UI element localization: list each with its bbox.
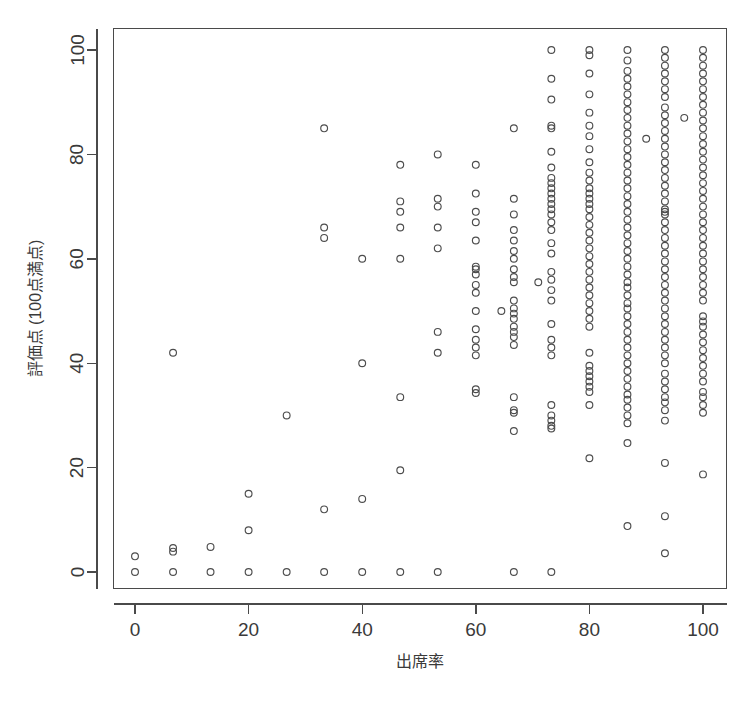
data-point bbox=[700, 54, 707, 61]
data-point bbox=[624, 185, 631, 192]
data-point bbox=[132, 553, 139, 560]
data-point bbox=[359, 569, 366, 576]
data-point bbox=[510, 237, 517, 244]
data-point bbox=[510, 394, 517, 401]
x-axis: 020406080100出席率 bbox=[114, 604, 727, 670]
data-point bbox=[700, 156, 707, 163]
data-point bbox=[397, 394, 404, 401]
data-point bbox=[624, 161, 631, 168]
data-point bbox=[662, 289, 669, 296]
data-point bbox=[586, 133, 593, 140]
data-point bbox=[662, 62, 669, 69]
data-point bbox=[624, 360, 631, 367]
data-point bbox=[586, 146, 593, 153]
data-point bbox=[662, 70, 669, 77]
data-point bbox=[700, 70, 707, 77]
data-point bbox=[586, 261, 593, 268]
data-point bbox=[624, 216, 631, 223]
data-point bbox=[662, 112, 669, 119]
data-point bbox=[700, 164, 707, 171]
data-point bbox=[700, 47, 707, 54]
data-point bbox=[359, 255, 366, 262]
data-point bbox=[498, 308, 505, 315]
data-point bbox=[624, 107, 631, 114]
data-point bbox=[700, 62, 707, 69]
data-point bbox=[624, 352, 631, 359]
data-point bbox=[700, 471, 707, 478]
data-point bbox=[624, 313, 631, 320]
data-point bbox=[434, 349, 441, 356]
data-point bbox=[132, 569, 139, 576]
data-point bbox=[586, 308, 593, 315]
data-point bbox=[548, 219, 555, 226]
data-point bbox=[586, 214, 593, 221]
data-point bbox=[624, 83, 631, 90]
data-point bbox=[548, 569, 555, 576]
data-point bbox=[624, 177, 631, 184]
data-point bbox=[624, 99, 631, 106]
data-point bbox=[700, 141, 707, 148]
plot-canvas: 020406080100出席率 020406080100評価点 (100点満点) bbox=[0, 0, 754, 702]
data-point bbox=[624, 263, 631, 270]
data-point bbox=[662, 198, 669, 205]
data-point bbox=[700, 180, 707, 187]
data-point bbox=[662, 151, 669, 158]
data-point bbox=[586, 402, 593, 409]
data-point bbox=[662, 282, 669, 289]
data-point bbox=[662, 235, 669, 242]
data-point bbox=[548, 148, 555, 155]
x-axis-tick-label: 100 bbox=[687, 619, 719, 640]
data-point bbox=[321, 506, 328, 513]
data-point bbox=[586, 315, 593, 322]
data-point bbox=[283, 412, 290, 419]
data-point bbox=[548, 240, 555, 247]
data-point bbox=[662, 54, 669, 61]
data-point bbox=[700, 297, 707, 304]
data-point bbox=[624, 232, 631, 239]
data-point bbox=[662, 328, 669, 335]
data-point bbox=[700, 117, 707, 124]
data-point bbox=[472, 208, 479, 215]
data-point bbox=[548, 402, 555, 409]
data-point bbox=[700, 203, 707, 210]
data-point bbox=[586, 245, 593, 252]
data-point bbox=[170, 349, 177, 356]
y-axis-tick-label: 80 bbox=[67, 144, 88, 165]
data-point bbox=[586, 349, 593, 356]
data-point bbox=[283, 569, 290, 576]
data-point bbox=[586, 300, 593, 307]
data-point bbox=[662, 128, 669, 135]
data-point bbox=[245, 490, 252, 497]
data-point bbox=[662, 219, 669, 226]
data-point bbox=[510, 195, 517, 202]
data-point bbox=[662, 370, 669, 377]
data-point bbox=[624, 321, 631, 328]
data-point bbox=[434, 195, 441, 202]
data-point bbox=[662, 305, 669, 312]
data-point bbox=[624, 292, 631, 299]
data-point bbox=[662, 274, 669, 281]
data-point bbox=[472, 190, 479, 197]
data-point bbox=[700, 355, 707, 362]
data-point bbox=[586, 323, 593, 330]
data-point bbox=[472, 237, 479, 244]
data-point bbox=[472, 308, 479, 315]
y-axis: 020406080100評価点 (100点満点) bbox=[27, 29, 98, 589]
data-point bbox=[662, 78, 669, 85]
scatter-plot-figure: 020406080100出席率 020406080100評価点 (100点満点)… bbox=[0, 0, 754, 702]
data-point bbox=[472, 289, 479, 296]
data-point bbox=[624, 375, 631, 382]
data-point bbox=[624, 328, 631, 335]
data-point bbox=[700, 211, 707, 218]
y-axis-tick-label: 0 bbox=[67, 567, 88, 578]
data-point bbox=[700, 86, 707, 93]
data-point bbox=[586, 276, 593, 283]
data-point bbox=[624, 138, 631, 145]
data-point bbox=[586, 122, 593, 129]
data-point bbox=[510, 211, 517, 218]
data-point bbox=[548, 287, 555, 294]
data-point bbox=[662, 86, 669, 93]
data-point bbox=[700, 289, 707, 296]
data-point bbox=[359, 496, 366, 503]
data-point bbox=[510, 297, 517, 304]
